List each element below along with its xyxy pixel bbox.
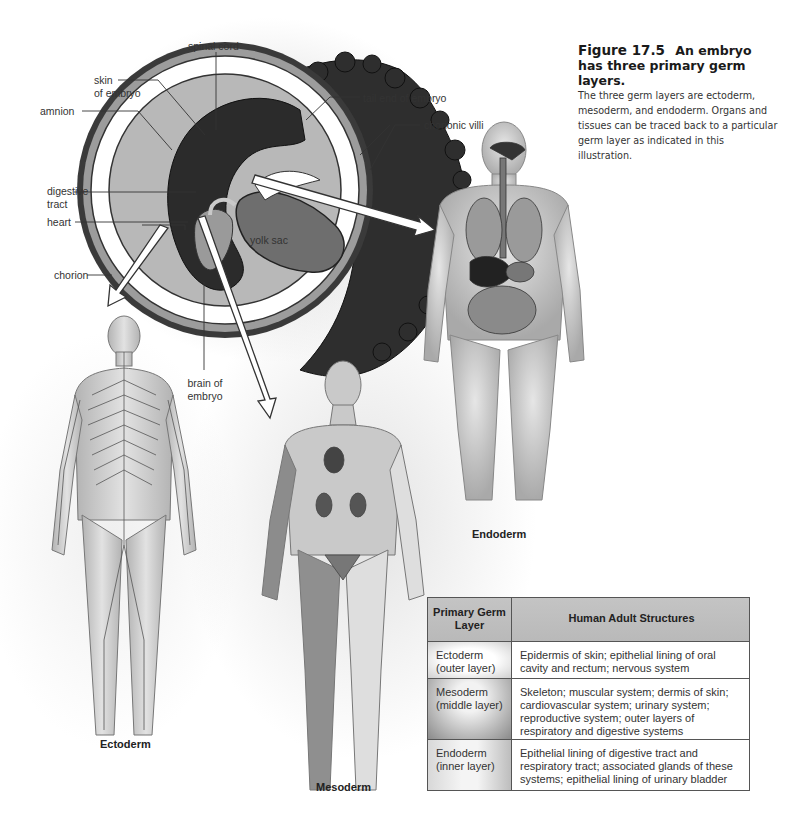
label-chorionic-villi: chorionic villi: [424, 119, 484, 131]
figure-number: Figure 17.5: [578, 42, 665, 58]
label-chorion: chorion: [54, 269, 88, 281]
figure-caption: Figure 17.5 An embryo has three primary …: [578, 43, 778, 163]
label-skin-line1: skin: [94, 74, 113, 86]
label-spinal-cord: spinal cord: [188, 40, 239, 52]
label-digestive-line2: tract: [47, 198, 67, 210]
table-row: Ectoderm (outer layer) Epidermis of skin…: [428, 641, 749, 678]
header-human-adult-structures: Human Adult Structures: [512, 598, 749, 641]
layer-cell: Ectoderm (outer layer): [428, 642, 512, 678]
table-row: Mesoderm (middle layer) Skeleton; muscul…: [428, 678, 749, 739]
label-brain-line1: brain of: [184, 377, 226, 389]
layer-cell: Endoderm (inner layer): [428, 740, 512, 790]
label-yolk-sac: yolk sac: [250, 234, 288, 246]
structures-cell: Epidermis of skin; epithelial lining of …: [512, 642, 749, 678]
structures-cell: Skeleton; muscular system; dermis of ski…: [512, 679, 749, 739]
figure-description: The three germ layers are ectoderm, meso…: [578, 88, 778, 163]
table-row: Endoderm (inner layer) Epithelial lining…: [428, 739, 749, 790]
label-brain-line2: embryo: [184, 390, 226, 402]
germ-layer-table: Primary Germ Layer Human Adult Structure…: [427, 597, 750, 791]
figure-page: Figure 17.5 An embryo has three primary …: [0, 0, 789, 826]
caption-heading: Figure 17.5 An embryo has three primary …: [578, 43, 778, 88]
table-header-row: Primary Germ Layer Human Adult Structure…: [428, 598, 749, 641]
label-tail-end: tail end of embryo: [363, 92, 446, 104]
structures-cell: Epithelial lining of digestive tract and…: [512, 740, 749, 790]
endoderm-organs: [466, 142, 542, 334]
label-skin-line2: of embryo: [94, 87, 141, 99]
label-amnion: amnion: [40, 105, 74, 117]
header-primary-germ-layer: Primary Germ Layer: [428, 598, 512, 641]
label-heart: heart: [47, 216, 71, 228]
label-mesoderm: Mesoderm: [316, 781, 371, 793]
label-endoderm: Endoderm: [472, 528, 526, 540]
layer-cell: Mesoderm (middle layer): [428, 679, 512, 739]
label-digestive-line1: digestive: [47, 185, 88, 197]
label-ectoderm: Ectoderm: [100, 738, 151, 750]
